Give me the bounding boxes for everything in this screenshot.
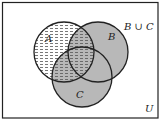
venn-diagram: A B C B ∪ C U <box>0 0 161 123</box>
universe-label: U <box>145 103 154 114</box>
set-c-label: C <box>76 89 84 100</box>
set-a-label: A <box>44 33 52 44</box>
b-union-c-label: B ∪ C <box>123 21 154 32</box>
set-b-label: B <box>107 31 115 42</box>
